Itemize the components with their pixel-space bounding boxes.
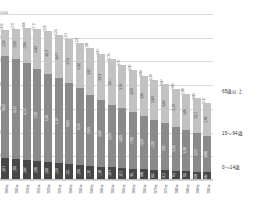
bar-slot[interactable]: 12,8062,9488,1741,684 — [21, 14, 32, 180]
stacked-bar[interactable]: 10,6413,9195,5841,138 — [97, 54, 105, 180]
bar-segment-0-to-14[interactable]: 1,684 — [23, 160, 31, 180]
bar-segment-65-and-over[interactable]: 3,921 — [86, 48, 94, 94]
stacked-bar[interactable]: 12,6732,2048,6221,847 — [1, 30, 9, 180]
bar-segment-65-and-over[interactable]: 3,540 — [129, 70, 137, 112]
stacked-bar[interactable]: 8,4563,3674,235854 — [150, 80, 158, 180]
bar-segment-65-and-over[interactable]: 3,304 — [161, 84, 169, 123]
bar-segment-65-and-over[interactable]: 3,704 — [118, 65, 126, 109]
x-label-slot: 2075年 — [160, 181, 171, 203]
stacked-bar[interactable]: 8,0873,3043,971812 — [161, 84, 169, 180]
segment-value-label: 2,948 — [25, 42, 28, 49]
segment-value-label: 4,529 — [142, 139, 145, 146]
bar-segment-15-to-64[interactable]: 7,406 — [44, 74, 52, 162]
bar-slot[interactable]: 7,6953,1973,725773 — [170, 14, 181, 180]
bar-segment-0-to-14[interactable]: 1,138 — [97, 167, 105, 180]
bar-segment-0-to-14[interactable]: 1,503 — [44, 162, 52, 180]
bar-segment-65-and-over[interactable]: 3,061 — [182, 94, 190, 130]
segment-value-label: 1,847 — [4, 166, 7, 173]
bar-segment-15-to-64[interactable]: 7,170 — [55, 78, 63, 163]
bar-segment-15-to-64[interactable]: 7,728 — [33, 69, 41, 161]
bar-slot[interactable]: 12,2543,6777,1701,407 — [53, 14, 64, 180]
x-label-slot: 2065年 — [138, 181, 149, 203]
bar-slot[interactable]: 11,9123,7166,8751,321 — [64, 14, 75, 180]
bar-segment-15-to-64[interactable]: 5,584 — [97, 100, 105, 166]
bar-segment-15-to-64[interactable]: 8,442 — [12, 59, 20, 159]
bar-slot[interactable]: 12,7772,5768,4421,759 — [11, 14, 22, 180]
bar-segment-15-to-64[interactable]: 6,494 — [76, 88, 84, 165]
bar-slot[interactable]: 12,6732,2048,6221,847 — [0, 14, 11, 180]
bar-segment-65-and-over[interactable]: 3,367 — [150, 80, 158, 120]
bar-segment-15-to-64[interactable]: 5,275 — [108, 105, 116, 168]
bar-slot[interactable]: 12,5283,6197,4061,503 — [43, 14, 54, 180]
bar-segment-65-and-over[interactable]: 2,912 — [193, 98, 201, 133]
bar-segment-15-to-64[interactable]: 5,978 — [86, 95, 94, 166]
bar-segment-0-to-14[interactable]: 1,759 — [12, 159, 20, 180]
stacked-bar[interactable]: 10,1933,8415,2751,077 — [108, 59, 116, 180]
bar-segment-0-to-14[interactable]: 1,246 — [76, 165, 84, 180]
stacked-bar[interactable]: 12,2543,6777,1701,407 — [55, 35, 63, 180]
segment-value-label: 2,912 — [196, 112, 199, 119]
bar-segment-65-and-over[interactable]: 2,948 — [23, 28, 31, 63]
bar-segment-15-to-64[interactable]: 4,235 — [150, 120, 158, 170]
stacked-bar[interactable]: 12,7772,5768,4421,759 — [12, 29, 20, 180]
bar-segment-0-to-14[interactable]: 1,321 — [65, 164, 73, 180]
stacked-bar[interactable]: 7,6953,1973,725773 — [172, 89, 180, 180]
bar-slot[interactable]: 6,4942,7643,066664 — [202, 14, 213, 180]
stacked-bar[interactable]: 11,5223,7826,4941,246 — [76, 43, 84, 180]
bar-segment-65-and-over[interactable]: 3,381 — [140, 76, 148, 116]
x-label-slot: 2010年 — [21, 181, 32, 203]
chart-legend: 65歳以上 15～64歳 0～14歳 — [218, 14, 270, 180]
stacked-bar[interactable]: 12,5283,6197,4061,503 — [44, 31, 52, 180]
bar-slot[interactable]: 8,8083,3814,529898 — [138, 14, 149, 180]
bar-segment-65-and-over[interactable]: 3,782 — [76, 43, 84, 88]
bar-segment-65-and-over[interactable]: 3,387 — [33, 29, 41, 69]
bar-segment-65-and-over[interactable]: 3,677 — [55, 35, 63, 79]
x-label-slot: 2060年 — [128, 181, 139, 203]
bar-segment-0-to-14[interactable]: 1,595 — [33, 161, 41, 180]
bar-segment-0-to-14[interactable]: 1,407 — [55, 163, 63, 180]
bar-segment-0-to-14[interactable]: 1,847 — [1, 158, 9, 180]
bar-segment-15-to-64[interactable]: 4,793 — [129, 112, 137, 169]
stacked-bar[interactable]: 12,7103,3877,7281,595 — [33, 29, 41, 180]
bar-slot[interactable]: 11,0933,9215,9781,194 — [85, 14, 96, 180]
bar-segment-65-and-over[interactable]: 3,619 — [44, 31, 52, 74]
bar-slot[interactable]: 9,2843,5404,793951 — [128, 14, 139, 180]
bar-slot[interactable]: 8,4563,3674,235854 — [149, 14, 160, 180]
stacked-bar[interactable]: 9,7443,7045,0281,012 — [118, 65, 126, 181]
bar-segment-15-to-64[interactable]: 4,529 — [140, 116, 148, 170]
stacked-bar[interactable]: 12,8062,9488,1741,684 — [23, 28, 31, 180]
bar-segment-65-and-over[interactable]: 3,841 — [108, 59, 116, 105]
bar-segment-65-and-over[interactable]: 3,716 — [65, 39, 73, 83]
bar-slot[interactable]: 9,7443,7045,0281,012 — [117, 14, 128, 180]
stacked-bar[interactable]: 8,8083,3814,529898 — [140, 76, 148, 180]
bar-segment-65-and-over[interactable]: 3,919 — [97, 54, 105, 100]
stacked-bar[interactable]: 11,0933,9215,9781,194 — [86, 48, 94, 180]
bar-slot[interactable]: 10,6413,9195,5841,138 — [96, 14, 107, 180]
bar-slot[interactable]: 7,2863,0613,490735 — [181, 14, 192, 180]
stacked-bar[interactable]: 7,2863,0613,490735 — [182, 94, 190, 180]
bar-segment-65-and-over[interactable]: 2,764 — [203, 103, 211, 136]
bar-slot[interactable]: 12,7103,3877,7281,595 — [32, 14, 43, 180]
bar-segment-15-to-64[interactable]: 3,725 — [172, 127, 180, 171]
stacked-bar[interactable]: 11,9123,7166,8751,321 — [65, 39, 73, 180]
stacked-bar[interactable]: 9,2843,5404,793951 — [129, 70, 137, 180]
bar-segment-15-to-64[interactable]: 5,028 — [118, 108, 126, 168]
bar-segment-65-and-over[interactable]: 2,204 — [1, 30, 9, 56]
bar-segment-15-to-64[interactable]: 3,971 — [161, 123, 169, 170]
bar-segment-65-and-over[interactable]: 3,197 — [172, 89, 180, 127]
bar-segment-65-and-over[interactable]: 2,576 — [12, 29, 20, 60]
bar-segment-15-to-64[interactable]: 6,875 — [65, 83, 73, 165]
bar-segment-15-to-64[interactable]: 8,622 — [1, 56, 9, 158]
bar-slot[interactable]: 10,1933,8415,2751,077 — [106, 14, 117, 180]
bar-slot[interactable]: 11,5223,7826,4941,246 — [74, 14, 85, 180]
segment-value-label: 3,921 — [89, 68, 92, 75]
stacked-bar[interactable]: 6,8832,9123,272699 — [193, 98, 201, 180]
bar-slot[interactable]: 8,0873,3043,971812 — [160, 14, 171, 180]
bar-segment-15-to-64[interactable]: 3,066 — [203, 136, 211, 172]
bar-slot[interactable]: 6,8832,9123,272699 — [192, 14, 203, 180]
bar-segment-15-to-64[interactable]: 8,174 — [23, 63, 31, 160]
bar-segment-0-to-14[interactable]: 1,194 — [86, 166, 94, 180]
bar-segment-15-to-64[interactable]: 3,490 — [182, 130, 190, 171]
bar-segment-15-to-64[interactable]: 3,272 — [193, 133, 201, 172]
stacked-bar[interactable]: 6,4942,7643,066664 — [203, 103, 211, 180]
